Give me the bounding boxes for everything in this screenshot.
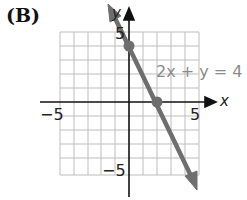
x-axis-arrow-icon [205, 97, 216, 107]
y-axis-arrow-icon [124, 8, 134, 20]
x-tick-5: 5 [190, 105, 200, 124]
y-tick-5: 5 [115, 24, 125, 43]
point-x-intercept [152, 97, 163, 108]
y-axis-label: y [112, 4, 121, 22]
equation-label: 2x + y = 4 [156, 62, 242, 81]
y-tick-neg5: −5 [102, 161, 126, 180]
x-tick-neg5: −5 [40, 105, 64, 124]
line-arrow-bottom-icon [185, 171, 197, 190]
x-axis-label: x [220, 92, 229, 110]
